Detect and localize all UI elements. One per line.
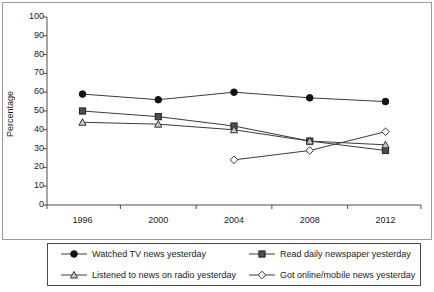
legend-label: Got online/mobile news yesterday [280,270,415,280]
legend-item[interactable]: Listened to news on radio yesterday [48,269,236,281]
x-axis-tick-label: 2008 [290,216,330,225]
legend-item[interactable]: Read daily newspaper yesterday [236,248,420,260]
data-point-marker [258,271,266,279]
y-axis-tick-label: 80 [18,50,44,59]
legend-item[interactable]: Watched TV news yesterday [48,248,236,260]
series-line [234,132,385,160]
series-1 [79,89,389,105]
chart-frame [3,3,432,240]
legend-item[interactable]: Got online/mobile news yesterday [236,269,420,281]
y-axis-tick-label: 50 [18,106,44,115]
filled-square-marker [248,248,276,260]
open-triangle-marker [60,269,88,281]
x-axis-tick-label: 2000 [138,216,178,225]
data-point-marker [79,108,85,114]
data-point-marker [155,114,161,120]
filled-circle-marker [60,248,88,260]
x-axis-tick-label: 1996 [63,216,103,225]
data-point-marker [259,251,265,257]
y-axis-tick-label: 70 [18,68,44,77]
data-point-marker [71,251,78,258]
y-axis-tick-label: 30 [18,144,44,153]
y-axis-tick-label: 60 [18,87,44,96]
y-axis-tick-label: 100 [18,12,44,21]
data-point-marker [79,91,86,98]
y-axis-tick-label: 10 [18,181,44,190]
chart-legend: Watched TV news yesterdayRead daily news… [47,243,421,286]
y-axis-tick-label: 90 [18,31,44,40]
data-point-marker [382,128,390,136]
legend-label: Watched TV news yesterday [92,249,206,259]
open-diamond-marker [248,269,276,281]
legend-label: Listened to news on radio yesterday [92,270,236,280]
data-point-marker [231,89,238,96]
data-point-marker [306,147,314,155]
y-axis-tick-label: 20 [18,162,44,171]
data-point-marker [306,95,313,102]
legend-label: Read daily newspaper yesterday [280,249,411,259]
chart-figure: Percentage 0102030405060708090100 199620… [0,0,434,292]
data-point-marker [230,156,238,164]
data-point-marker [155,96,162,103]
x-axis-tick-label: 2004 [214,216,254,225]
y-axis-tick-label: 40 [18,125,44,134]
data-point-marker [382,98,389,105]
y-axis-tick-labels: 0102030405060708090100 [16,0,44,292]
y-axis-tick-label: 0 [18,200,44,209]
x-axis-tick-label: 2012 [365,216,405,225]
